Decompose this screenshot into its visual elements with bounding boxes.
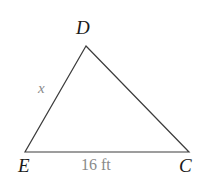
triangle-shape (0, 0, 205, 181)
triangle-outline (25, 46, 189, 152)
triangle-figure: D E C x 16 ft (0, 0, 205, 181)
base-measurement-label: 16 ft (81, 157, 111, 173)
side-label-x: x (38, 81, 45, 96)
vertex-label-c: C (179, 156, 192, 175)
vertex-label-e: E (18, 156, 30, 175)
vertex-label-d: D (76, 18, 90, 37)
